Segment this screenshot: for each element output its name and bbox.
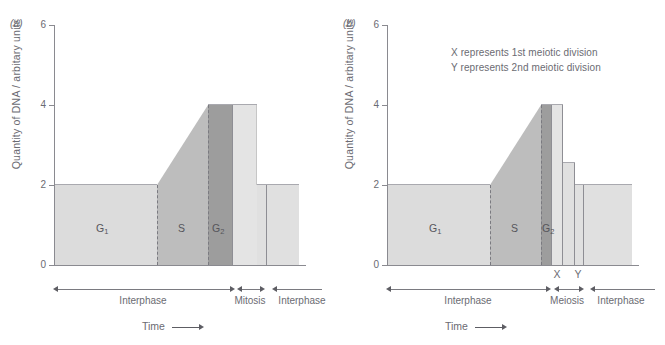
panel-a-label-g1: G1: [96, 222, 108, 234]
panel-b-outline-top-level2-right: [575, 184, 632, 185]
panel-b-legend-line-x: X represents 1st meiotic division: [451, 45, 601, 60]
panel-a-timeline-mitosis-arrow-right: [260, 286, 265, 292]
panel-a-timeline-mitosis-bar: [242, 289, 260, 290]
panel-b-time-arrow-line: [475, 327, 503, 328]
panel-b-timeline-meiosis-arrow-right: [579, 286, 584, 292]
panel-a-time-arrow-line: [172, 327, 200, 328]
panel-a-timeline-interphase-bar: [58, 289, 230, 290]
panel-b-label-g1: G1: [429, 222, 441, 234]
panel-b-timeline-interphase-bar: [391, 289, 546, 290]
panel-a-timeline-label-interphase2: Interphase: [272, 295, 332, 306]
panel-b-timeline-interphase2-arrow-left: [590, 286, 595, 292]
panel-a-ytick-4: [49, 105, 55, 106]
panel-b-timeline-label-meiosis: Meiosis: [541, 295, 593, 306]
panel-a-yticklabel-0: 0: [30, 259, 46, 270]
panel-a-ytick-0: [49, 265, 55, 266]
panel-b-divider-g1-s: [490, 185, 491, 265]
panel-a-timeline-interphase2-bar: [277, 289, 322, 290]
panel-b-yticklabel-6: 6: [363, 19, 379, 30]
panel-b-time-arrow-head: [502, 324, 507, 330]
panel-b-timeline-interphase-arrow-left: [386, 286, 391, 292]
panel-a-region-s: [157, 105, 208, 265]
panel-b-marker-y: Y: [571, 268, 585, 280]
panel-a-timeline-label-interphase: Interphase: [88, 295, 198, 306]
panel-a-time-arrow-head: [199, 324, 204, 330]
panel-a-outline-g2-right: [232, 105, 233, 265]
panel-b-label-s: S: [511, 222, 518, 234]
panel-b-yticklabel-2: 2: [363, 179, 379, 190]
panel-a-timeline-label-mitosis: Mitosis: [224, 295, 276, 306]
panel-a-region-mitosis: [232, 105, 257, 265]
panel-a-outline-top-level2-right: [257, 184, 299, 185]
panel-b-legend-line-y: Y represents 2nd meiotic division: [451, 60, 601, 75]
panel-b-legend: X represents 1st meiotic division Y repr…: [451, 45, 601, 75]
panel-b-ytick-4: [382, 105, 388, 106]
panel-b-outline-top-step: [563, 162, 575, 163]
panel-a-timeline-interphase-arrow-left: [53, 286, 58, 292]
panel-a-divider-g1-s: [157, 185, 158, 265]
panel-a-label-g2: G2: [212, 222, 224, 234]
panel-a-ytick-6: [49, 25, 55, 26]
panel-b-timeline-label-interphase: Interphase: [413, 295, 523, 306]
panel-b-yticklabel-0: 0: [363, 259, 379, 270]
panel-a-time-label: Time: [142, 320, 165, 332]
panel-a-outline-top-level4: [208, 104, 257, 105]
panel-b-divider-s-g2: [541, 105, 542, 265]
panel-a-y-axis-label: Quantity of DNA / arbitary units: [10, 0, 22, 194]
panel-b-outline-top-level2-left: [388, 184, 490, 185]
panel-b-label-g2: G2: [542, 222, 554, 234]
panel-b-y-axis-label: Quantity of DNA / arbitary units: [343, 0, 355, 194]
panel-a-region-interphase2: [257, 185, 299, 265]
panel-b-outline-daughter-cell: [583, 185, 584, 265]
panel-a-outline-top-level2-left: [55, 184, 157, 185]
panel-b-time-label: Time: [445, 320, 468, 332]
panel-b-ytick-0: [382, 265, 388, 266]
panel-a-yticklabel-6: 6: [30, 19, 46, 30]
panel-a-outline-daughter-cell: [266, 185, 267, 265]
panel-a-region-g2: [208, 105, 232, 265]
panel-b-timeline-meiosis-arrow-left: [554, 286, 559, 292]
panel-b-x-axis-line: [387, 265, 639, 266]
panel-a-label-s: S: [178, 222, 185, 234]
panel-a-divider-s-g2: [208, 105, 209, 265]
panel-b-outline-x-right: [562, 105, 563, 265]
panel-a-outline-mitosis-right: [256, 105, 257, 185]
panel-a: (a) Quantity of DNA / arbitary units 6 4…: [0, 0, 332, 345]
panel-b-timeline-interphase2-bar: [595, 289, 655, 290]
panel-b-outline-top-level4: [541, 104, 563, 105]
panel-b-marker-x: X: [550, 268, 564, 280]
panel-b-region-g2: [541, 105, 551, 265]
panel-b-timeline-interphase-arrow-right: [546, 286, 551, 292]
panel-b-timeline-label-interphase2: Interphase: [591, 295, 651, 306]
panel-b-outline-g2-right: [551, 105, 552, 265]
panel-b-region-s: [490, 105, 541, 265]
panel-a-timeline-interphase2-arrow-left: [272, 286, 277, 292]
panel-a-yticklabel-2: 2: [30, 179, 46, 190]
panel-a-yticklabel-4: 4: [30, 99, 46, 110]
panel-a-x-axis-line: [54, 265, 306, 266]
panel-b-ytick-6: [382, 25, 388, 26]
panel-b: (b) Quantity of DNA / arbitary units 6 4…: [333, 0, 665, 345]
panel-b-yticklabel-4: 4: [363, 99, 379, 110]
panel-b-outline-y-right: [574, 163, 575, 265]
panel-a-timeline-interphase-arrow-right: [230, 286, 235, 292]
panel-a-timeline-mitosis-arrow-left: [237, 286, 242, 292]
panel-b-timeline-meiosis-bar: [559, 289, 579, 290]
